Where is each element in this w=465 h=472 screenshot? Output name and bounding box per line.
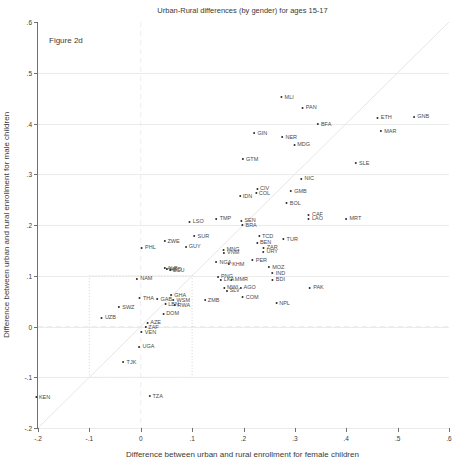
data-point-BDI: BDI: [272, 271, 285, 287]
gridline-y-.5: [38, 73, 449, 74]
y-tick-label: .5: [18, 69, 32, 76]
marker-dot-icon: [413, 116, 415, 118]
marker-dot-icon: [157, 298, 159, 300]
point-label: COM: [246, 295, 259, 301]
marker-dot-icon: [268, 266, 270, 268]
data-point-PAN: PAN: [302, 99, 317, 115]
marker-dot-icon: [241, 224, 243, 226]
marker-dot-icon: [215, 261, 217, 263]
marker-dot-icon: [302, 107, 304, 109]
point-label: UGA: [142, 344, 154, 350]
marker-dot-icon: [185, 246, 187, 248]
marker-dot-icon: [255, 192, 257, 194]
gridline-y-0: [38, 327, 449, 328]
marker-dot-icon: [123, 361, 125, 363]
x-tick: [398, 428, 399, 432]
point-label: TJK: [127, 360, 137, 366]
point-label: BFA: [321, 122, 331, 128]
marker-dot-icon: [223, 287, 225, 289]
point-label: URY: [266, 249, 278, 255]
data-point-IDN: IDN: [239, 188, 252, 204]
y-tick: [34, 174, 38, 175]
marker-dot-icon: [138, 346, 140, 348]
x-tick-label: .6: [439, 435, 459, 442]
marker-dot-icon: [162, 313, 164, 315]
y-tick-label: .4: [18, 120, 32, 127]
x-tick-label: .5: [388, 435, 408, 442]
marker-dot-icon: [136, 278, 138, 280]
marker-dot-icon: [226, 290, 228, 292]
marker-dot-icon: [252, 259, 254, 261]
y-tick: [34, 124, 38, 125]
data-point-COL: COL: [255, 185, 270, 201]
y-tick: [34, 22, 38, 23]
data-point-BRA: BRA: [241, 216, 256, 232]
marker-dot-icon: [204, 299, 206, 301]
figure-label: Figure 2d: [49, 36, 83, 45]
marker-dot-icon: [300, 178, 302, 180]
data-point-ZWE: ZWE: [163, 233, 179, 249]
x-tick-label: 0: [131, 435, 151, 442]
data-point-PAK: PAK: [309, 279, 324, 295]
point-label: ECU: [173, 268, 185, 274]
y-tick: [34, 73, 38, 74]
data-point-GNB: GNB: [413, 108, 429, 124]
y-tick-label: .1: [18, 272, 32, 279]
point-label: GUY: [189, 244, 201, 250]
point-label: THA: [143, 296, 154, 302]
marker-dot-icon: [242, 158, 244, 160]
marker-dot-icon: [242, 296, 244, 298]
x-tick: [346, 428, 347, 432]
point-label: PAK: [313, 285, 324, 291]
point-label: TZA: [152, 394, 162, 400]
data-point-LAO: LAO: [308, 210, 323, 226]
y-tick: [34, 327, 38, 328]
marker-dot-icon: [239, 195, 241, 197]
marker-dot-icon: [228, 263, 230, 265]
marker-dot-icon: [141, 331, 143, 333]
x-tick-label: -.2: [28, 435, 48, 442]
data-point-TJK: TJK: [123, 354, 137, 370]
point-label: MAR: [384, 129, 396, 135]
data-point-PER: PER: [252, 252, 267, 268]
point-label: BOL: [290, 201, 301, 207]
marker-dot-icon: [286, 202, 288, 204]
data-point-SWZ: SWZ: [118, 299, 134, 315]
data-point-KEN: KEN: [35, 389, 50, 405]
data-point-NPL: NPL: [275, 295, 290, 311]
data-point-THA: THA: [139, 290, 154, 306]
marker-dot-icon: [189, 221, 191, 223]
marker-dot-icon: [169, 269, 171, 271]
point-label: NAM: [140, 276, 152, 282]
y-axis-title-text: Difference between urban and rural enrol…: [2, 112, 11, 338]
point-label: COL: [259, 191, 270, 197]
y-tick-label: .6: [18, 19, 32, 26]
point-label: SLE: [359, 161, 369, 167]
marker-dot-icon: [290, 190, 292, 192]
point-label: MRT: [350, 216, 362, 222]
point-label: MLI: [285, 95, 294, 101]
point-label: LAO: [312, 216, 323, 222]
point-label: KEN: [39, 395, 50, 401]
data-point-TZA: TZA: [148, 388, 162, 404]
point-label: IDN: [243, 194, 252, 200]
data-point-ZMB: ZMB: [204, 292, 220, 308]
marker-dot-icon: [283, 238, 285, 240]
x-tick: [295, 428, 296, 432]
data-point-MLI: MLI: [281, 89, 294, 105]
x-tick: [89, 428, 90, 432]
y-tick: [34, 276, 38, 277]
marker-dot-icon: [346, 218, 348, 220]
point-label: ZMB: [208, 298, 220, 304]
marker-dot-icon: [166, 268, 168, 270]
marker-dot-icon: [309, 287, 311, 289]
point-label: GNB: [417, 114, 429, 120]
point-label: TMP: [220, 216, 232, 222]
point-label: NPL: [279, 301, 290, 307]
point-label: GMB: [294, 189, 307, 195]
marker-dot-icon: [101, 317, 103, 319]
data-point-MDG: MDG: [293, 136, 310, 152]
point-label: NIC: [304, 176, 313, 182]
data-point-DOM: DOM: [162, 305, 179, 321]
plot-area: -.2-.10.1.2.3.4.5.6-.2-.10.1.2.3.4.5.6 M…: [37, 22, 449, 429]
